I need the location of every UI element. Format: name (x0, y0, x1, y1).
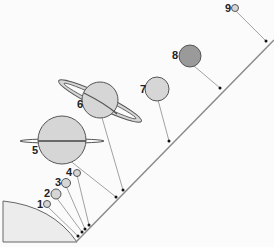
planet-8 (179, 45, 201, 67)
planet-4 (74, 170, 81, 177)
planet-8-label: 8 (172, 49, 178, 61)
planet-7 (145, 77, 169, 101)
planet-4-leader-line (77, 175, 89, 225)
planet-3-axis-dot (84, 228, 87, 231)
diagram-canvas: 123456789 (0, 0, 274, 247)
planet-2-axis-dot (81, 231, 84, 234)
planet-5 (38, 116, 86, 164)
planet-3-label: 3 (55, 176, 61, 188)
planet-8-axis-dot (219, 87, 222, 90)
distance-axis (76, 40, 274, 242)
planet-6-axis-dot (122, 189, 125, 192)
planet-3-leader-line (66, 186, 85, 229)
planet-9-leader-line (235, 10, 266, 41)
planet-1-axis-dot (77, 235, 80, 238)
planet-1-label: 1 (37, 198, 43, 210)
planet-2-label: 2 (44, 187, 50, 199)
solar-system-diagram: 123456789 (0, 0, 274, 247)
planet-3 (62, 179, 71, 188)
planet-4-axis-dot (88, 224, 91, 227)
planet-1 (44, 201, 51, 208)
planet-7-axis-dot (168, 140, 171, 143)
planet-5-axis-dot (115, 196, 118, 199)
planet-4-label: 4 (66, 166, 73, 178)
planet-6-leader-line (100, 111, 123, 190)
planet-7-label: 7 (140, 83, 146, 95)
planet-9 (232, 5, 239, 12)
planet-7-leader-line (157, 96, 169, 141)
planet-2 (51, 189, 61, 199)
planet-5-label: 5 (32, 144, 38, 156)
planet-9-axis-dot (265, 40, 268, 43)
planet-9-label: 9 (225, 2, 231, 14)
planet-6-label: 6 (77, 98, 83, 110)
planet-6 (82, 82, 118, 118)
